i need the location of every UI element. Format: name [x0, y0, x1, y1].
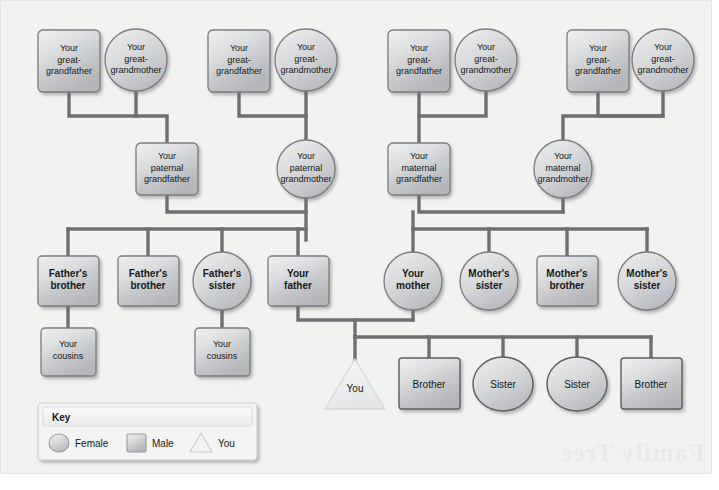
connector-ggcouple-2: [239, 92, 306, 141]
node-sister-2[interactable]: Sister: [547, 357, 607, 411]
node-your-cousins-2[interactable]: Yourcousins: [195, 328, 250, 376]
key-title: Key: [52, 412, 71, 423]
node-great-grandmother-4[interactable]: Yourgreat-grandmother: [632, 29, 694, 91]
node-fathers-brother-2[interactable]: Father'sbrother: [118, 256, 179, 306]
node-you[interactable]: You: [325, 359, 385, 409]
node-mothers-sister-1[interactable]: Mother'ssister: [460, 252, 518, 310]
node-great-grandfather-4[interactable]: Yourgreat-grandfather: [567, 30, 629, 92]
connector-maternal-marriage: [419, 194, 563, 212]
node-brother-1[interactable]: Brother: [399, 358, 460, 409]
node-label: Father'sbrother: [129, 268, 168, 291]
node-label: Mother'sbrother: [546, 268, 588, 291]
generation-great-grandparents: Yourgreat-grandfather Yourgreat-grandmot…: [38, 29, 694, 92]
node-mothers-sister-2[interactable]: Mother'ssister: [618, 252, 676, 310]
node-great-grandmother-2[interactable]: Yourgreat-grandmother: [275, 29, 337, 91]
connector-ggm-3: [419, 90, 486, 116]
node-great-grandmother-3[interactable]: Yourgreat-grandmother: [455, 29, 517, 91]
node-label: Brother: [413, 379, 446, 390]
generation-cousins: Yourcousins Yourcousins: [41, 328, 250, 376]
node-your-cousins-1[interactable]: Yourcousins: [41, 328, 96, 376]
node-great-grandmother-1[interactable]: Yourgreat-grandmother: [105, 29, 167, 91]
connector-ggcouple-4: [598, 92, 663, 116]
connector-lines: [68, 90, 663, 362]
node-your-father[interactable]: Yourfather: [268, 256, 329, 306]
generation-grandparents: Yourpaternalgrandfather Yourpaternalgran…: [136, 140, 592, 198]
node-your-mother[interactable]: Yourmother: [384, 252, 442, 310]
node-brother-2[interactable]: Brother: [621, 358, 682, 409]
node-paternal-grandmother[interactable]: Yourpaternalgrandmother: [277, 140, 335, 198]
generation-siblings: You Brother Sister Sister Brother: [325, 357, 682, 411]
node-label: Sister: [564, 379, 590, 390]
node-maternal-grandfather[interactable]: Yourmaternalgrandfather: [388, 143, 450, 195]
node-label: Brother: [635, 379, 668, 390]
node-label: Father'sbrother: [49, 268, 88, 291]
node-fathers-brother-1[interactable]: Father'sbrother: [38, 256, 99, 306]
connector-ggm-4: [563, 90, 663, 141]
page-root: Family Tree: [0, 0, 719, 490]
node-label: Yourfather: [284, 268, 312, 291]
node-fathers-sister[interactable]: Father'ssister: [193, 252, 251, 310]
node-great-grandfather-2[interactable]: Yourgreat-grandfather: [208, 30, 270, 92]
generation-parents: Father'sbrother Father'sbrother Father's…: [38, 252, 676, 310]
key-item-label: Male: [152, 438, 174, 449]
node-maternal-grandmother[interactable]: Yourmaternalgrandmother: [534, 140, 592, 198]
node-paternal-grandfather[interactable]: Yourpaternalgrandfather: [136, 143, 198, 195]
node-great-grandfather-3[interactable]: Yourgreat-grandfather: [388, 30, 450, 92]
node-sister-1[interactable]: Sister: [473, 357, 533, 411]
connector-ggcouple-1: [69, 92, 167, 145]
connector-paternal-marriage: [167, 194, 306, 212]
node-great-grandfather-1[interactable]: Yourgreat-grandfather: [38, 30, 100, 92]
family-tree-diagram: Yourgreat-grandfather Yourgreat-grandmot…: [0, 0, 719, 490]
key-item-label: Female: [75, 438, 109, 449]
node-label: You: [347, 383, 364, 394]
node-mothers-brother[interactable]: Mother'sbrother: [537, 256, 598, 306]
node-label: Sister: [490, 379, 516, 390]
key-legend: Key Female Male You: [38, 403, 257, 460]
key-item-label: You: [218, 438, 235, 449]
